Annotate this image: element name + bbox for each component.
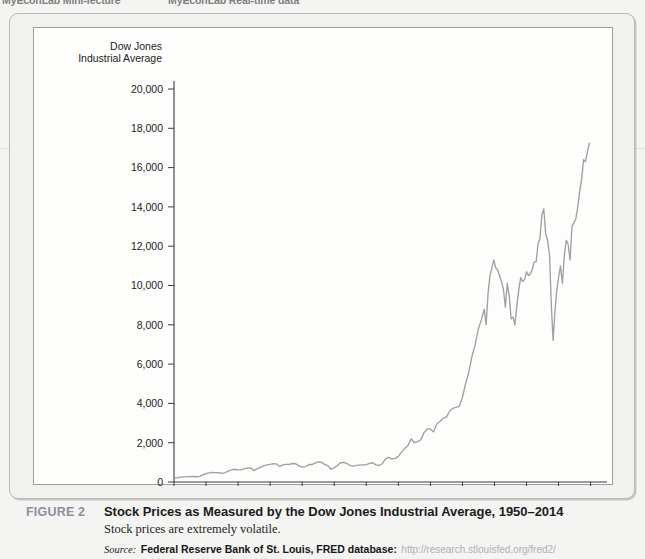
source-label: Source: bbox=[104, 544, 136, 555]
svg-text:20,000: 20,000 bbox=[131, 83, 163, 95]
myeconlab-mini-lecture-label: MyEconLab Mini-lecture bbox=[2, 0, 121, 6]
svg-text:10,000: 10,000 bbox=[131, 279, 163, 291]
svg-text:8,000: 8,000 bbox=[137, 319, 163, 331]
svg-text:Industrial Average: Industrial Average bbox=[78, 52, 162, 64]
page-header-strip: MyEconLab Mini-lecture MyEconLab Real-ti… bbox=[0, 0, 645, 11]
svg-text:0: 0 bbox=[157, 476, 163, 486]
svg-text:14,000: 14,000 bbox=[131, 201, 163, 213]
source-url[interactable]: http://research.stlouisfed.org/fred2/ bbox=[401, 544, 556, 555]
svg-text:16,000: 16,000 bbox=[131, 161, 163, 173]
plot-frame: Dow JonesIndustrial Average20,00018,0001… bbox=[33, 27, 613, 485]
figure-source-line: Source: Federal Reserve Bank of St. Loui… bbox=[104, 539, 556, 557]
dow-jones-line-chart: Dow JonesIndustrial Average20,00018,0001… bbox=[34, 28, 614, 486]
source-organization: Federal Reserve Bank of St. Louis, FRED … bbox=[141, 543, 397, 555]
svg-text:18,000: 18,000 bbox=[131, 122, 163, 134]
figure-number: FIGURE 2 bbox=[26, 505, 85, 519]
figure-caption: FIGURE 2 Stock Prices as Measured by the… bbox=[0, 502, 645, 559]
figure-subtitle: Stock prices are extremely volatile. bbox=[104, 522, 281, 537]
svg-text:4,000: 4,000 bbox=[137, 397, 163, 409]
svg-text:Dow Jones: Dow Jones bbox=[110, 40, 162, 52]
svg-text:6,000: 6,000 bbox=[137, 358, 163, 370]
figure-panel: Dow JonesIndustrial Average20,00018,0001… bbox=[9, 13, 635, 499]
svg-text:2,000: 2,000 bbox=[137, 437, 163, 449]
figure-title: Stock Prices as Measured by the Dow Jone… bbox=[104, 504, 563, 519]
svg-text:12,000: 12,000 bbox=[131, 240, 163, 252]
myeconlab-realtime-data-label: MyEconLab Real-time data bbox=[168, 0, 299, 6]
